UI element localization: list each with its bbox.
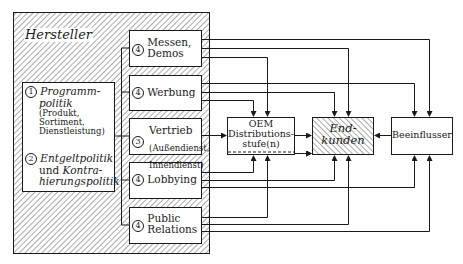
instrument-vertrieb: 3 Vertrieb (Außendienst, Innendienst) — [132, 121, 209, 171]
endkunden-label: End- kunden — [313, 122, 373, 146]
instrument-label: Lobbying — [147, 173, 197, 185]
number-badge: 2 — [25, 153, 37, 165]
instrument-label: Werbung — [147, 86, 195, 98]
policy-1: 1 Programm- politik (Produkt, Sortiment,… — [25, 86, 113, 136]
number-badge: 4 — [132, 220, 144, 232]
instrument-label: Demos — [147, 47, 183, 59]
policy-2-title-3: hierungspolitik — [39, 176, 115, 187]
oem-line-3: stufe(n) — [228, 139, 294, 149]
instrument-messen: 4 Messen, Demos — [132, 37, 191, 59]
number-badge: 4 — [132, 44, 144, 56]
instrument-pr: 4 Public Relations — [132, 213, 197, 235]
policy-2-title-1: Entgeltpolitik — [40, 152, 113, 164]
number-badge: 1 — [25, 86, 37, 98]
number-badge: 4 — [132, 87, 144, 99]
policy-2: 2 Entgeltpolitik und Kontra- hierungspol… — [25, 153, 115, 187]
manufacturer-title: Hersteller — [24, 28, 93, 42]
endkunden-line-2: kunden — [313, 134, 373, 146]
instrument-label: Vertrieb — [149, 124, 192, 136]
instrument-sublabel: Innendienst) — [149, 160, 204, 170]
instrument-sublabel: (Außendienst, — [149, 143, 209, 153]
oem-label: OEM Distributions- stufe(n) — [228, 119, 294, 149]
number-badge: 3 — [132, 136, 144, 148]
policy-1-sub-3: Dienstleistung) — [39, 127, 113, 136]
instrument-lobbying: 4 Lobbying — [132, 174, 197, 186]
beeinflusser-label: Beeinflusser — [392, 130, 452, 140]
number-badge: 4 — [132, 174, 144, 186]
policy-1-title-1: Programm- — [40, 85, 100, 97]
instrument-werbung: 4 Werbung — [132, 87, 195, 99]
instrument-label: Relations — [147, 223, 197, 235]
